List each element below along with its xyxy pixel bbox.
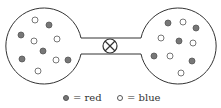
red-particle xyxy=(40,48,46,54)
red-particle xyxy=(176,38,182,44)
left-bulb xyxy=(6,8,81,84)
legend-red: = red xyxy=(63,92,102,103)
red-particle xyxy=(193,25,199,31)
blue-particle-icon xyxy=(117,95,123,101)
red-particle-icon xyxy=(63,95,69,101)
blue-particle xyxy=(158,35,164,41)
legend-blue: = blue xyxy=(117,92,161,103)
legend-blue-label: = blue xyxy=(127,92,161,103)
blue-particle xyxy=(180,19,186,25)
blue-particle xyxy=(53,57,59,63)
valve-icon xyxy=(103,39,117,53)
red-particle xyxy=(19,56,25,62)
red-particle xyxy=(165,20,171,26)
red-particle xyxy=(46,22,52,28)
blue-particle xyxy=(167,53,173,59)
red-particle xyxy=(65,57,71,63)
legend: = red = blue xyxy=(0,92,221,106)
blue-particle xyxy=(31,38,37,44)
gas-bulbs-diagram xyxy=(0,0,221,92)
red-particle xyxy=(189,58,195,64)
blue-particle xyxy=(54,36,60,42)
blue-particle xyxy=(190,40,196,46)
blue-particle xyxy=(32,17,38,23)
red-particle xyxy=(151,53,157,59)
red-particle xyxy=(18,32,24,38)
blue-particle xyxy=(35,68,41,74)
blue-particle xyxy=(178,70,184,76)
legend-red-label: = red xyxy=(73,92,102,103)
